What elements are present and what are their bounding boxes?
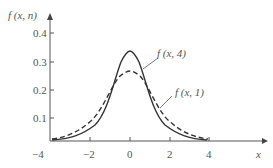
x-tick--2: −2 [83, 148, 95, 160]
y-tick-0.3: 0.3 [33, 56, 47, 68]
y-tick-0.1: 0.1 [33, 112, 47, 124]
y-axis-arrow-icon [47, 13, 53, 20]
x-axis-arrow-icon [262, 138, 268, 144]
annotation-leader-f4 [143, 58, 158, 69]
chart: 0.1 0.2 0.3 0.4 −4 −2 0 2 4 f (x, n) x f… [0, 0, 273, 168]
annotation-f-x-1: f (x, 1) [175, 86, 204, 99]
annotation-f-x-4: f (x, 4) [157, 47, 186, 60]
x-tick-2: 2 [167, 148, 173, 160]
y-tick-0.4: 0.4 [33, 27, 47, 39]
x-tick-4: 4 [206, 148, 212, 160]
y-tick-0.2: 0.2 [33, 84, 47, 96]
x-tick--4: −4 [32, 148, 44, 160]
annotation-leader-f1 [160, 96, 172, 108]
x-tick-0: 0 [127, 148, 133, 160]
y-axis-label: f (x, n) [8, 9, 37, 22]
series-f-x-1 [52, 71, 208, 139]
x-axis-label: x [255, 148, 261, 160]
